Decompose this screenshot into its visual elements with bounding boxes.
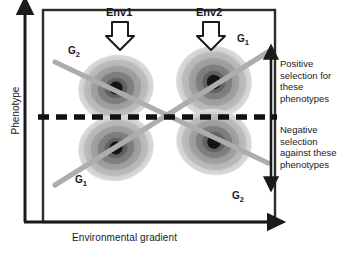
annot-line: these — [280, 81, 352, 93]
negative-selection-annotation: Negative selection against these phenoty… — [280, 124, 352, 170]
annot-line: Negative — [280, 124, 352, 136]
genotype-label-g2-bottom-right: G2 — [232, 190, 244, 204]
positive-selection-annotation: Positive selection for these phenotypes — [280, 58, 352, 104]
env2-arrow-icon — [197, 22, 225, 50]
genotype-subscript: 1 — [83, 179, 87, 188]
genotype-label-g1-top-right: G1 — [237, 33, 249, 47]
y-axis-label: Phenotype — [10, 73, 21, 149]
x-axis-label: Environmental gradient — [72, 232, 177, 243]
env1-label: Env1 — [106, 6, 132, 18]
genotype-letter: G — [75, 174, 83, 185]
annot-line: selection for — [280, 70, 352, 82]
genotype-subscript: 2 — [240, 195, 244, 204]
genotype-label-g2-top-left: G2 — [68, 45, 80, 59]
env2-label: Env2 — [196, 6, 222, 18]
env1-arrow-icon — [106, 22, 134, 50]
genotype-letter: G — [68, 45, 76, 56]
annot-line: Positive — [280, 58, 352, 70]
genotype-label-g1-bottom-left: G1 — [75, 174, 87, 188]
annot-line: phenotypes — [280, 93, 352, 105]
genotype-letter: G — [232, 190, 240, 201]
annot-line: against these — [280, 147, 352, 159]
genotype-subscript: 1 — [245, 38, 249, 47]
genotype-subscript: 2 — [76, 50, 80, 59]
annot-line: selection — [280, 136, 352, 148]
annot-line: phenotypes — [280, 159, 352, 171]
genotype-letter: G — [237, 33, 245, 44]
